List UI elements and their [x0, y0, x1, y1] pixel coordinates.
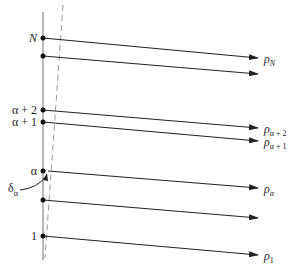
arrow-N-minus-1	[41, 54, 259, 75]
label-alpha-plus-1: α + 1	[12, 115, 37, 129]
label-delta-alpha: δα	[8, 181, 19, 198]
label-one: 1	[31, 229, 37, 243]
diagram-canvas: N α + 2 α + 1 α 1 δα ρN ρα + 2 ρα + 1 ρα…	[0, 0, 296, 270]
label-alpha: α	[31, 164, 38, 178]
delta-pointer-arrow	[20, 176, 46, 190]
arrow-N	[41, 36, 259, 59]
arrow-alpha-plus-1	[41, 120, 259, 142]
label-rho-alpha: ρα	[263, 182, 275, 198]
arrow-1	[41, 234, 259, 256]
label-N: N	[28, 31, 38, 45]
dashed-line	[45, 5, 63, 258]
label-rho-1: ρ1	[263, 249, 274, 265]
arrow-alpha-minus-1	[41, 198, 259, 219]
label-rho-N: ρN	[263, 52, 276, 68]
arrow-alpha	[41, 169, 259, 189]
